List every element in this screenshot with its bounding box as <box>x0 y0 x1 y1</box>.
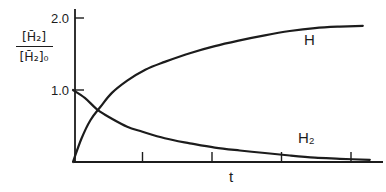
curve-label-H: H <box>304 31 315 48</box>
y-axis-label-fraction: [H̄₂] [H̄₂]₀ <box>13 28 55 65</box>
fraction-bar <box>16 46 53 47</box>
y-axis-label-denominator: [H̄₂]₀ <box>19 48 48 65</box>
curve-H <box>73 26 363 162</box>
kinetics-plot: 1.02.0 [H̄₂] [H̄₂]₀ H H₂ t <box>0 0 386 192</box>
x-axis-label: t <box>229 168 233 185</box>
y-tick-label: 1.0 <box>51 83 69 98</box>
curve-label-H2: H₂ <box>298 129 315 146</box>
plot-canvas: 1.02.0 <box>0 0 386 192</box>
y-axis-label-numerator: [H̄₂] <box>22 28 46 45</box>
curve-H2 <box>73 90 370 160</box>
y-tick-label: 2.0 <box>51 11 69 26</box>
